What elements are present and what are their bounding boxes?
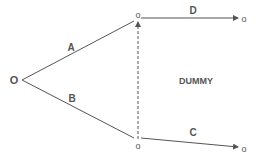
label-c: C xyxy=(189,127,196,138)
node-start: O xyxy=(10,74,19,86)
label-dummy: DUMMY xyxy=(179,76,213,86)
label-a: A xyxy=(67,42,74,53)
edge-a xyxy=(22,21,134,80)
network-diagram: O o o o o A B D C DUMMY xyxy=(0,0,257,161)
label-b: B xyxy=(68,93,75,104)
node-end-top: o xyxy=(241,14,246,24)
label-d: D xyxy=(189,5,196,16)
edge-c xyxy=(141,138,238,147)
edge-b xyxy=(22,80,134,138)
node-bottom: o xyxy=(135,141,140,151)
node-end-bottom: o xyxy=(241,144,246,154)
node-top: o xyxy=(135,10,140,20)
